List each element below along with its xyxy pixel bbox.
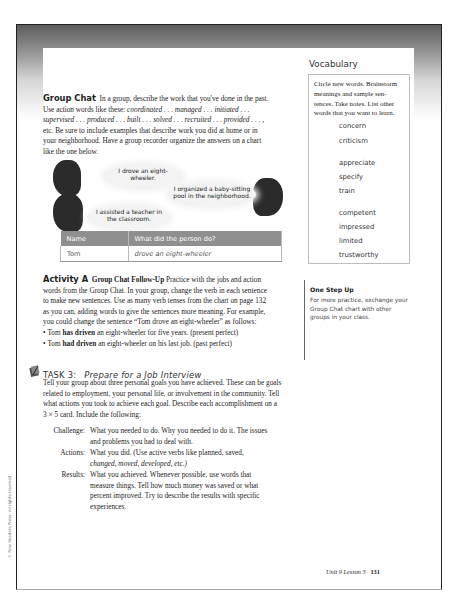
text: Use action words like these: xyxy=(43,105,127,114)
text: What you needed to do. Why you needed to… xyxy=(90,426,350,437)
text: What you did. (Use active verbs like pla… xyxy=(90,448,350,459)
vocabulary-box: Circle new words. Brainstorm meanings an… xyxy=(308,74,410,264)
group-chat-section: Group Chat In a group, describe the work… xyxy=(43,93,293,158)
speech-bubble: I organized a baby-sitting pool in the n… xyxy=(168,182,256,207)
task3-instructions: Tell your group about three personal goa… xyxy=(43,378,343,420)
text: For more practice, exchange your xyxy=(310,296,410,305)
one-step-up-text: For more practice, exchange your Group C… xyxy=(310,296,410,322)
text: Circle new words. Brainstorm xyxy=(314,79,397,89)
textbook-page: Group Chat In a group, describe the work… xyxy=(43,48,414,588)
speech-bubble: I assisted a teacher in the classroom. xyxy=(88,205,170,230)
page-number: 131 xyxy=(370,568,379,575)
text: words from the Group Chat. In your group… xyxy=(43,286,305,297)
verb-emphasis: has driven xyxy=(63,328,96,337)
text: groups in your class. xyxy=(310,313,410,322)
person-silhouette-icon xyxy=(53,194,83,232)
vocab-word: specify xyxy=(339,173,363,181)
vocab-word: trustworthy xyxy=(339,251,378,259)
text: What you achieved. Whenever possible, us… xyxy=(90,470,350,481)
challenge-text: What you needed to do. Why you needed to… xyxy=(90,426,350,447)
text: Practice with the jobs and action xyxy=(164,275,261,284)
text: 3 × 5 card. Include the following: xyxy=(43,410,343,421)
group-chat-intro: In a group, describe the work that you'v… xyxy=(100,94,269,103)
bubble-text: I organized a baby-sitting xyxy=(168,185,256,192)
vocab-word: impressed xyxy=(339,223,374,231)
results-label: Results: xyxy=(31,470,85,481)
vocab-word: competent xyxy=(339,209,376,217)
text: an eight-wheeler for five years. (presen… xyxy=(95,328,238,337)
text: and problems you had to deal with. xyxy=(90,437,350,448)
text: Group Chat chart with other xyxy=(310,305,410,314)
text: measure things. Tell how much money was … xyxy=(90,481,350,492)
vocab-word: concern xyxy=(339,122,366,130)
bullet-item: • Tom has driven an eight-wheeler for fi… xyxy=(43,328,305,339)
text: an eight-wheeler on his last job. (past … xyxy=(96,339,232,348)
person-silhouette-icon xyxy=(53,160,81,196)
bubble-text: wheeler. xyxy=(103,174,183,181)
text: experiences. xyxy=(90,502,350,513)
action-words: coordinated . . . managed . . . initiate… xyxy=(127,105,250,114)
table-cell: drove an eight-wheeler xyxy=(128,246,282,262)
vocabulary-instructions: Circle new words. Brainstorm meanings an… xyxy=(314,79,397,118)
table-cell: Tom xyxy=(61,246,129,262)
text: your neighborhood. Have a group recorder… xyxy=(43,136,293,147)
text: Tom xyxy=(47,339,62,348)
actions-text: What you did. (Use active verbs like pla… xyxy=(90,448,350,469)
copyright-notice: © New Readers Press. All rights reserved… xyxy=(7,474,12,558)
vocab-word: appreciate xyxy=(339,159,375,167)
challenge-label: Challenge: xyxy=(31,426,85,437)
action-words: supervised . . . produced . . . built . … xyxy=(43,115,264,124)
text: to make new sentences. Use as many verb … xyxy=(43,296,305,307)
bubble-text: I assisted a teacher in xyxy=(88,208,170,215)
text: you could change the sentence “Tom drove… xyxy=(43,317,305,328)
table-row: Tom drove an eight-wheeler xyxy=(61,246,282,262)
text: percent improved. Try to describe the re… xyxy=(90,491,350,502)
text: words that you want to learn. xyxy=(314,108,397,118)
text: what actions you took to achieve each go… xyxy=(43,399,343,410)
text: as you can, adding words to give the sen… xyxy=(43,307,305,318)
notepad-icon xyxy=(29,363,41,375)
vocab-word: criticism xyxy=(339,137,368,145)
lesson-label: Unit 9 Lesson 3 xyxy=(326,568,366,575)
group-chat-illustration: I drove an eight- wheeler. I organized a… xyxy=(43,160,293,236)
text: changed, moved, developed, etc.) xyxy=(90,459,350,470)
bubble-text: pool in the neighborhood. xyxy=(168,192,256,199)
text: Tell your group about three personal goa… xyxy=(43,378,343,389)
actions-label: Actions: xyxy=(31,448,85,459)
bubble-text: I drove an eight- xyxy=(103,167,183,174)
activity-a-subtitle: Group Chat Follow-Up xyxy=(92,275,164,284)
vocabulary-heading: Vocabulary xyxy=(309,59,358,69)
text: related to employment, your personal lif… xyxy=(43,389,343,400)
one-step-up-box: One Step Up For more practice, exchange … xyxy=(310,286,410,322)
page-footer: Unit 9 Lesson 3 131 xyxy=(326,568,380,575)
group-chat-title: Group Chat xyxy=(43,93,96,103)
verb-emphasis: had driven xyxy=(63,339,97,348)
column-header: Name xyxy=(61,231,129,246)
results-text: What you achieved. Whenever possible, us… xyxy=(90,470,350,512)
group-chat-table: Name What did the person do? Tom drove a… xyxy=(60,231,282,262)
vocab-word: limited xyxy=(339,237,362,245)
activity-a-section: Activity A Group Chat Follow-Up Practice… xyxy=(43,274,305,349)
text: tences. Take notes. List other xyxy=(314,99,397,109)
text: etc. Be sure to include examples that de… xyxy=(43,126,293,137)
text: meanings and sample sen- xyxy=(314,89,397,99)
text: like the one below. xyxy=(43,147,293,158)
bubble-text: the classroom. xyxy=(88,215,170,222)
text: Tom xyxy=(47,328,62,337)
table-header-row: Name What did the person do? xyxy=(61,231,282,246)
person-silhouette-icon xyxy=(253,178,283,216)
one-step-up-title: One Step Up xyxy=(310,286,410,293)
activity-a-label: Activity A xyxy=(43,274,88,284)
column-header: What did the person do? xyxy=(128,231,282,246)
bullet-item: • Tom had driven an eight-wheeler on his… xyxy=(43,339,305,350)
vocab-word: train xyxy=(339,187,355,195)
